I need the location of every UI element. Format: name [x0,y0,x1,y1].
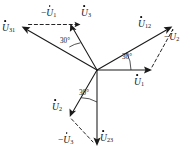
angle-arc-bottom-left [81,98,97,102]
angle-label-top-left: 30° [60,38,70,45]
label-u12: U12 [138,20,151,30]
vector-u31 [22,27,97,71]
angle-label-right: 30° [122,54,132,61]
vector-u12 [97,27,172,71]
angle-arc-top-left [69,43,80,47]
label-u3: U3 [81,9,91,19]
phasor-vectors-svg [0,0,190,160]
label-u1: U1 [134,78,144,88]
vector-neg-u3 [72,119,94,142]
angle-label-bottom-left: 30° [79,90,89,97]
label-neg-u3: −U3 [58,136,73,146]
vector-u1 [97,67,152,74]
label-neg-u1: −U1 [41,9,56,19]
vector-u3 [70,24,97,70]
label-u31: U31 [2,24,15,34]
label-u23: U23 [100,134,113,144]
label-neg-u2: −U2 [164,33,179,43]
label-u2: U2 [52,103,62,113]
phasor-diagram: U31 −U1 U3 U12 −U2 U1 U2 −U3 U23 30° 30°… [0,0,190,160]
